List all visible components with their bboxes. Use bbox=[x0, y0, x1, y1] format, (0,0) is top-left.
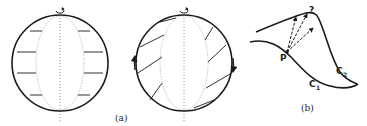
panel-b-label: (b) bbox=[301, 103, 314, 113]
left-sphere bbox=[12, 7, 108, 122]
curve-c1-label: C bbox=[309, 79, 316, 89]
rotation-arrow-icon bbox=[56, 7, 65, 13]
curve-c1 bbox=[250, 41, 358, 88]
point-p-label: P bbox=[280, 53, 287, 63]
rotation-arrow-icon bbox=[180, 7, 189, 13]
curve-c2-label: C bbox=[336, 66, 343, 76]
panel-a-label: (a) bbox=[115, 113, 127, 123]
curve-c2-subscript: 2 bbox=[343, 71, 347, 78]
side-arrow-right-icon bbox=[233, 58, 234, 72]
right-sphere bbox=[134, 7, 233, 122]
figure-canvas: (a) P ? C 2 C 1 (b) bbox=[0, 0, 367, 126]
panel-b: P ? C 2 C 1 bbox=[250, 5, 358, 91]
side-arrow-left-icon bbox=[134, 56, 135, 70]
candidate-arrows bbox=[287, 14, 313, 52]
question-mark-label: ? bbox=[309, 5, 314, 15]
curve-c1-subscript: 1 bbox=[316, 84, 320, 91]
